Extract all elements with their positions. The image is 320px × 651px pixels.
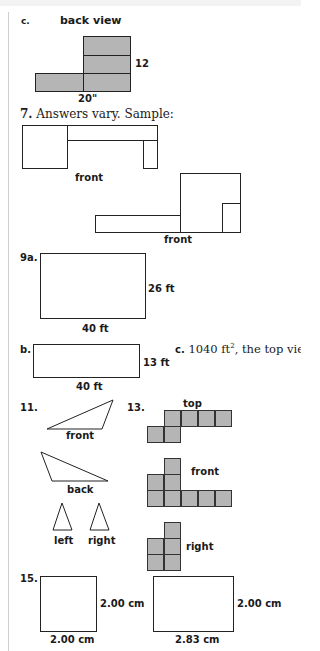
triangle-back-label: back xyxy=(67,484,93,495)
square-15-width: 2.00 cm xyxy=(50,634,95,645)
rect-15-width: 2.83 cm xyxy=(175,634,220,645)
problem-15-label: 15. xyxy=(20,573,38,584)
top-view-label: top xyxy=(183,398,202,409)
problem-13-label: 13. xyxy=(127,402,145,413)
triangle-front-label: front xyxy=(66,430,94,441)
rect-15-height: 2.00 cm xyxy=(237,598,282,609)
square-15 xyxy=(40,576,97,632)
front-view-label: front xyxy=(191,466,219,477)
rect-15 xyxy=(153,576,234,632)
right-view-label: right xyxy=(186,541,213,552)
triangle-right-label: right xyxy=(88,535,115,546)
triangle-left-label: left xyxy=(54,535,73,546)
square-15-height: 2.00 cm xyxy=(100,598,145,609)
